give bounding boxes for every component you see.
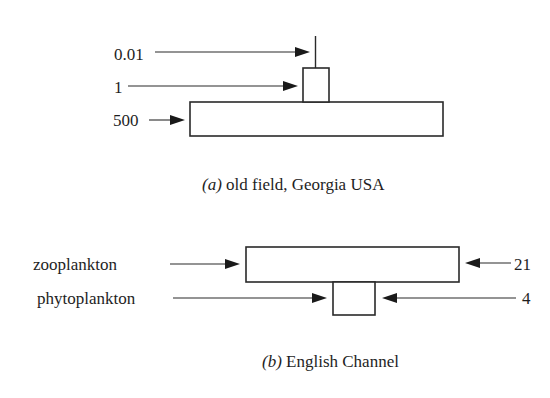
pyramid-b-caption-tag: (b) — [262, 352, 282, 371]
pyramid-b-label-zooplankton: zooplankton — [33, 255, 118, 274]
pyramid-a-caption-tag: (a) — [202, 175, 222, 194]
pyramid-b-label-phytoplankton: phytoplankton — [37, 289, 136, 308]
arrow-right-icon — [295, 47, 310, 57]
arrow-left-icon — [465, 258, 480, 268]
arrow-right-icon — [312, 293, 327, 303]
pyramid-a-caption: (a) old field, Georgia USA — [202, 175, 385, 194]
pyramid-a-level-bottom — [190, 102, 443, 136]
arrow-left-icon — [382, 293, 397, 303]
pyramid-b-caption: (b) English Channel — [262, 352, 399, 371]
pyramid-b-level-zooplankton — [246, 247, 459, 282]
pyramid-b-value-phytoplankton: 4 — [522, 289, 531, 308]
pyramid-figure: 0.01 1 500 (a) old field, Georgia USA zo… — [0, 0, 550, 398]
pyramid-a-level-middle — [303, 68, 329, 102]
arrow-right-icon — [225, 259, 240, 269]
pyramid-a-caption-text: old field, Georgia USA — [222, 175, 385, 194]
pyramid-b: zooplankton phytoplankton 21 4 (b) Engli… — [33, 247, 531, 371]
pyramid-b-level-phytoplankton — [333, 282, 375, 315]
pyramid-a-label-bottom: 500 — [113, 111, 139, 130]
pyramid-a-label-middle: 1 — [114, 78, 123, 97]
pyramid-a-label-top: 0.01 — [114, 45, 144, 64]
arrow-right-icon — [283, 81, 298, 91]
pyramid-b-value-zooplankton: 21 — [514, 255, 531, 274]
pyramid-a: 0.01 1 500 (a) old field, Georgia USA — [113, 36, 443, 194]
arrow-right-icon — [170, 115, 185, 125]
pyramid-b-caption-text: English Channel — [282, 352, 399, 371]
